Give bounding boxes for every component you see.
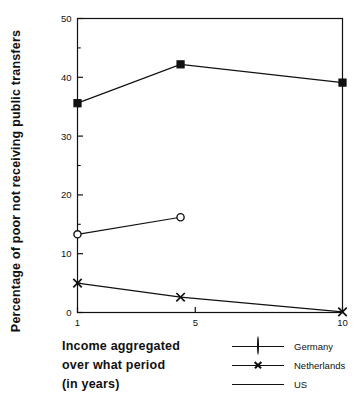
legend-label-germany: Germany xyxy=(284,341,333,352)
legend-sample-netherlands xyxy=(232,356,284,375)
data-series xyxy=(73,61,346,316)
open-circle-marker-icon xyxy=(257,337,259,355)
legend-item-us: US xyxy=(232,375,360,394)
x-axis-title-line-2: over what period xyxy=(62,356,227,375)
x-axis-title-line-3: (in years) xyxy=(62,375,227,394)
svg-text:10: 10 xyxy=(61,248,72,259)
x-axis-title-line-1: Income aggregated xyxy=(62,337,227,356)
chart-figure: Percentage of poor not receiving public … xyxy=(0,0,361,397)
legend-item-germany: Germany xyxy=(232,337,360,356)
axis-ticks xyxy=(78,19,343,313)
legend-line-icon xyxy=(232,384,284,385)
svg-text:10: 10 xyxy=(337,317,348,328)
svg-text:40: 40 xyxy=(61,72,72,83)
svg-text:50: 50 xyxy=(61,13,72,24)
chart-legend: Germany Netherlands US xyxy=(232,337,360,394)
legend-sample-us xyxy=(232,375,284,394)
svg-text:30: 30 xyxy=(61,131,72,142)
legend-label-us: US xyxy=(284,379,307,390)
svg-text:5: 5 xyxy=(193,317,198,328)
legend-item-netherlands: Netherlands xyxy=(232,356,360,375)
legend-label-netherlands: Netherlands xyxy=(284,360,345,371)
svg-text:20: 20 xyxy=(61,189,72,200)
x-axis-title: Income aggregated over what period (in y… xyxy=(62,337,227,394)
svg-text:0: 0 xyxy=(66,307,71,318)
legend-sample-germany xyxy=(232,337,284,356)
plot-frame xyxy=(78,19,343,313)
axis-tick-labels: 010203040501510 xyxy=(61,13,348,328)
svg-text:1: 1 xyxy=(75,317,80,328)
